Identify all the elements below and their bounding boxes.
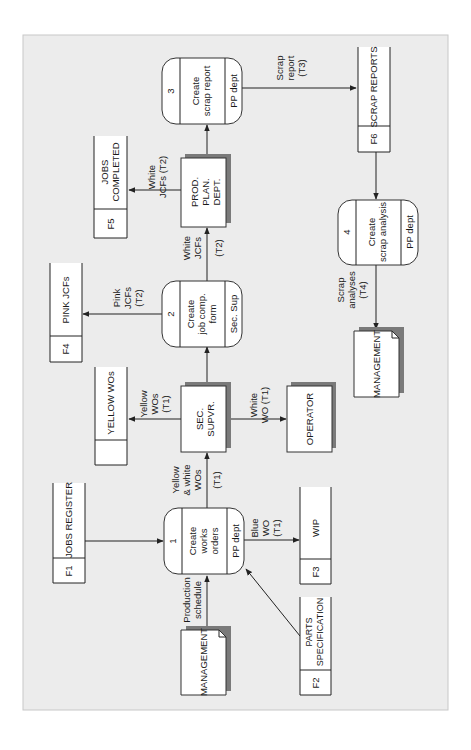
process-3-line1: Create	[190, 77, 201, 106]
label-blue-wo: Blue WO (T1)	[249, 518, 282, 537]
store-yellow-wos-name: YELLOW WOs	[105, 371, 116, 435]
store-yellow-wos[interactable]: YELLOW WOs	[95, 367, 127, 465]
store-f5-id: F5	[105, 218, 116, 229]
store-f1-jobs-register[interactable]: F1 JOBS REGISTER	[53, 482, 85, 583]
svg-text:JCFs (T2): JCFs (T2)	[157, 156, 168, 198]
svg-text:WOs: WOs	[192, 469, 203, 490]
svg-text:Scrap: Scrap	[335, 278, 346, 303]
process-2-location: Sec. Sup	[228, 295, 239, 334]
process-3-line2: scrap report	[201, 65, 212, 116]
svg-text:(T1): (T1)	[160, 395, 171, 412]
process-3-location: PP dept	[228, 74, 239, 108]
svg-text:WO: WO	[260, 520, 271, 536]
process-3-id: 3	[165, 88, 176, 93]
svg-text:Scrap: Scrap	[274, 56, 285, 81]
store-f6-scrap-reports[interactable]: F6 SCRAP REPORTS	[358, 47, 390, 152]
process-2-line2: job comp.	[196, 293, 207, 335]
store-f5-jobs-completed[interactable]: F5 JOBS COMPLETED	[94, 136, 127, 238]
process-2[interactable]: 2 Create job comp. form Sec. Sup	[162, 281, 242, 347]
entity-sec-supvr-line1: SEC.	[194, 408, 205, 430]
svg-text:report: report	[285, 55, 296, 80]
svg-text:WO (T1): WO (T1)	[259, 387, 270, 423]
label-production-schedule: Production schedule	[181, 577, 203, 622]
store-f5-name-line1: JOBS	[99, 160, 110, 185]
svg-text:Yellow: Yellow	[170, 466, 181, 493]
entity-sec-supvr-line2: SUPVR.	[205, 401, 216, 436]
store-f4-id: F4	[60, 343, 71, 354]
process-3[interactable]: 3 Create scrap report PP dept	[162, 58, 242, 124]
svg-text:Pink: Pink	[111, 289, 122, 308]
process-2-line1: Create	[185, 300, 196, 329]
svg-text:(T1): (T1)	[211, 471, 222, 488]
store-f2-id: F2	[310, 677, 321, 688]
process-1-line1: Create	[187, 527, 198, 556]
svg-text:analyses: analyses	[346, 271, 357, 309]
process-4-line1: Create	[366, 218, 377, 247]
process-2-line3: form	[207, 304, 218, 323]
svg-text:White: White	[181, 236, 192, 260]
svg-text:(T4): (T4)	[357, 281, 368, 298]
svg-text:Blue: Blue	[249, 518, 260, 537]
entity-sec-supvr[interactable]: SEC. SUPVR.	[181, 382, 231, 452]
entity-prod-plan-dept[interactable]: PROD. PLAN. DEPT.	[181, 154, 231, 227]
store-f4-pink-jcfs[interactable]: F4 PINK JCFs	[50, 263, 82, 362]
entity-management-top-label: MANAGEMENT	[371, 330, 382, 398]
svg-text:JCFs: JCFs	[122, 287, 133, 309]
store-f2-name-line1: PARTS	[304, 617, 314, 646]
svg-text:Production: Production	[181, 577, 192, 622]
process-1[interactable]: 1 Create works orders PP dept	[164, 508, 244, 574]
store-f6-id: F6	[368, 133, 379, 144]
process-4-location: PP dept	[404, 215, 415, 249]
store-f2-parts-specification[interactable]: F2 PARTS SPECIFICATION	[300, 597, 331, 695]
process-1-id: 1	[167, 538, 178, 543]
store-f3-name: WIP	[310, 519, 321, 537]
entity-management-bottom[interactable]: MANAGEMENT	[181, 626, 231, 696]
store-f3-wip[interactable]: F3 WIP	[300, 487, 331, 584]
svg-text:schedule: schedule	[192, 581, 203, 619]
entity-operator[interactable]: OPERATOR	[287, 382, 336, 452]
process-1-line2: works	[198, 528, 209, 554]
svg-text:White: White	[146, 165, 157, 189]
entity-management-top[interactable]: MANAGEMENT	[354, 327, 404, 398]
process-1-location: PP dept	[230, 524, 241, 558]
svg-text:JCFs: JCFs	[192, 237, 203, 259]
store-f2-name-line2: SPECIFICATION	[315, 598, 325, 666]
svg-text:(T2): (T2)	[213, 239, 224, 256]
svg-text:Yellow: Yellow	[138, 390, 149, 417]
svg-text:(T3): (T3)	[296, 59, 307, 76]
store-f1-name: JOBS REGISTER	[63, 482, 74, 558]
label-pink-jcfs: Pink JCFs (T2)	[111, 287, 144, 309]
process-4-line2: scrap analysis	[377, 202, 388, 262]
process-4[interactable]: 4 Create scrap analysis PP dept	[338, 200, 418, 265]
svg-text:(T2): (T2)	[133, 289, 144, 306]
process-1-line3: orders	[209, 527, 220, 554]
entity-prod-plan-line1: PROD.	[189, 177, 200, 207]
store-f4-name: PINK JCFs	[60, 276, 71, 323]
svg-text:WOs: WOs	[149, 393, 160, 414]
process-4-id: 4	[341, 229, 352, 234]
entity-operator-label: OPERATOR	[304, 393, 315, 446]
svg-text:& white: & white	[181, 464, 192, 495]
svg-text:(T1): (T1)	[271, 519, 282, 536]
label-white-jcfs-to-plan: White JCFs (T2)	[181, 236, 224, 260]
store-f6-name: SCRAP REPORTS	[368, 47, 379, 128]
svg-text:White: White	[248, 393, 259, 417]
store-f5-name-line2: COMPLETED	[110, 142, 121, 201]
entity-prod-plan-line2: PLAN.	[200, 178, 211, 205]
data-flow-diagram: 3 Create scrap report PP dept 2 Create j…	[0, 0, 471, 750]
process-2-id: 2	[165, 311, 176, 316]
store-f3-id: F3	[310, 566, 321, 577]
store-f1-id: F1	[63, 565, 74, 576]
entity-prod-plan-line3: DEPT.	[211, 179, 222, 206]
entity-management-bottom-label: MANAGEMENT	[198, 628, 209, 696]
